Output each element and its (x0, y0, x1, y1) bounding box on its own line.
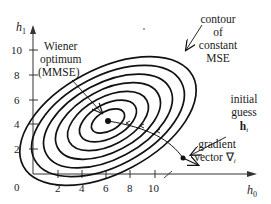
diagram-svg: 10 8 6 4 2 0 2 4 6 8 10 h1 h0 Wiener opt… (0, 0, 271, 204)
contour-annotation: contour of constant MSE (199, 13, 238, 64)
contour-text-2: of (213, 26, 223, 38)
diagram-canvas: 10 8 6 4 2 0 2 4 6 8 10 h1 h0 Wiener opt… (0, 0, 271, 204)
stray-dot (143, 28, 145, 30)
y-tick-2: 2 (14, 143, 20, 155)
gradient-annotation: gradient vector ∇i (194, 138, 236, 165)
wiener-annotation: Wiener optimum (MMSE) (38, 40, 82, 79)
y-axis-arrow-icon (30, 25, 36, 34)
contour-text-3: constant (199, 39, 238, 51)
x-tick-10: 10 (148, 182, 160, 194)
x-tick-labels: 2 4 6 8 10 (55, 182, 160, 194)
y-tick-6: 6 (14, 94, 20, 106)
x-tick-2: 2 (55, 182, 61, 194)
initial-text-1: initial (231, 93, 258, 105)
x-tick-8: 8 (127, 182, 133, 194)
contour-text-1: contour (200, 13, 235, 25)
wiener-text-1: Wiener (44, 40, 78, 52)
contour-text-4: MSE (206, 52, 230, 64)
initial-guess-annotation: initial guess hi (231, 93, 258, 134)
y-axis-label: h1 (16, 20, 26, 36)
initial-text-2: guess (231, 106, 257, 119)
x-axis-arrow-icon (247, 171, 257, 177)
wiener-text-2: optimum (40, 53, 82, 66)
origin-label: 0 (14, 181, 20, 193)
y-tick-10: 10 (11, 44, 23, 56)
optimum-point (105, 118, 111, 124)
x-tick-6: 6 (103, 182, 109, 194)
initial-text-3: hi (240, 120, 248, 134)
y-tick-4: 4 (14, 118, 20, 130)
y-tick-labels: 10 8 6 4 2 0 (11, 44, 23, 193)
gradient-text-1: gradient (198, 138, 236, 151)
gradient-text-2: vector ∇i (194, 151, 236, 165)
x-axis-label: h0 (247, 183, 257, 199)
x-tick-4: 4 (79, 182, 85, 194)
wiener-text-3: (MMSE) (38, 66, 80, 79)
y-tick-8: 8 (14, 69, 20, 81)
